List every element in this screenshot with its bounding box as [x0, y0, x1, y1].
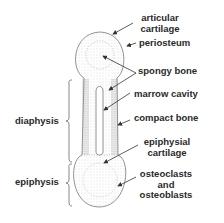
label-line: articular [134, 13, 186, 24]
label-compact-bone: compact bone [134, 113, 198, 124]
label-articular-cartilage: articular cartilage [134, 13, 186, 34]
label-line: osteoblasts [136, 190, 196, 201]
label-diaphysis: diaphysis [15, 116, 59, 127]
label-epiphysis: epiphysis [15, 177, 59, 188]
label-line: epiphysial [139, 137, 195, 148]
label-spongy-bone: spongy bone [138, 66, 197, 77]
label-marrow-cavity: marrow cavity [134, 89, 198, 100]
label-epiphysial-cartilage: epiphysial cartilage [139, 137, 195, 158]
label-osteoclasts-osteoblasts: osteoclasts and osteoblasts [136, 169, 196, 201]
label-periosteum: periosteum [139, 38, 190, 49]
bone-shape [74, 32, 126, 207]
label-line: cartilage [139, 148, 195, 159]
diaphysis-brace [66, 80, 72, 162]
epiphysis-brace [66, 164, 72, 206]
label-line: osteoclasts [136, 169, 196, 180]
label-line: cartilage [134, 24, 186, 35]
